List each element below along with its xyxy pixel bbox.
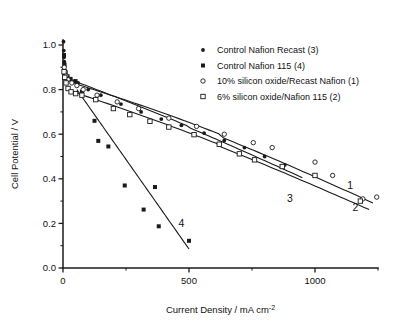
marker-open-square bbox=[64, 81, 68, 85]
marker-filled-square bbox=[142, 208, 146, 212]
marker-open-square bbox=[111, 106, 115, 110]
curve-label-4: 4 bbox=[179, 217, 185, 229]
marker-filled-square bbox=[93, 119, 97, 123]
marker-open-square bbox=[201, 94, 205, 98]
legend-label: Control Nafion 115 (4) bbox=[217, 61, 305, 71]
marker-filled-square bbox=[62, 53, 66, 57]
marker-open-circle bbox=[167, 116, 171, 120]
marker-open-circle bbox=[270, 145, 274, 149]
marker-filled-circle bbox=[62, 49, 66, 53]
marker-filled-circle bbox=[201, 48, 205, 52]
marker-filled-square bbox=[96, 139, 100, 143]
marker-filled-square bbox=[201, 64, 205, 68]
legend-label: 10% silicon oxide/Recast Nafion (1) bbox=[217, 76, 359, 86]
legend-item-4: 6% silicon oxide/Nafion 115 (2) bbox=[201, 92, 341, 102]
marker-open-circle bbox=[115, 100, 119, 104]
x-axis-title-superscript: -2 bbox=[269, 304, 275, 311]
polarization-chart-figure: 0.00.20.40.60.81.005001000 1234 Control … bbox=[0, 0, 402, 325]
marker-open-square bbox=[252, 158, 256, 162]
marker-open-square bbox=[63, 75, 67, 79]
marker-filled-circle bbox=[202, 131, 206, 135]
marker-open-square bbox=[167, 125, 171, 129]
marker-filled-circle bbox=[62, 40, 66, 44]
marker-open-square bbox=[128, 112, 132, 116]
curve-label-2: 2 bbox=[352, 201, 358, 213]
marker-open-square bbox=[94, 97, 98, 101]
x-tick-label: 0 bbox=[60, 275, 65, 286]
marker-filled-square bbox=[187, 239, 191, 243]
marker-filled-square bbox=[157, 224, 161, 228]
x-axis-title: Current Density / mA cm-2 bbox=[166, 304, 275, 316]
y-axis-title: Cell Potential / V bbox=[9, 118, 20, 189]
x-tick-label: 1000 bbox=[304, 275, 325, 286]
legend-label: 6% silicon oxide/Nafion 115 (2) bbox=[217, 92, 340, 102]
marker-filled-circle bbox=[159, 117, 163, 121]
legend-item-2: Control Nafion 115 (4) bbox=[201, 61, 305, 71]
y-tick-label: 0.4 bbox=[43, 173, 56, 184]
chart-svg: 0.00.20.40.60.81.005001000 1234 Control … bbox=[0, 0, 402, 325]
marker-open-circle bbox=[222, 132, 226, 136]
marker-open-circle bbox=[81, 87, 85, 91]
marker-open-circle bbox=[330, 173, 334, 177]
marker-open-circle bbox=[313, 160, 317, 164]
marker-open-circle bbox=[75, 83, 79, 87]
marker-open-square bbox=[69, 90, 73, 94]
legend-item-3: 10% silicon oxide/Recast Nafion (1) bbox=[201, 76, 359, 86]
marker-filled-circle bbox=[180, 123, 184, 127]
x-tick-label: 500 bbox=[181, 275, 197, 286]
marker-filled-square bbox=[153, 185, 157, 189]
y-tick-label: 0.8 bbox=[43, 84, 56, 95]
marker-open-square bbox=[73, 91, 77, 95]
marker-open-square bbox=[280, 164, 284, 168]
y-tick-label: 1.0 bbox=[43, 39, 56, 50]
marker-open-circle bbox=[251, 140, 255, 144]
marker-open-circle bbox=[62, 65, 66, 69]
marker-open-square bbox=[237, 152, 241, 156]
marker-open-square bbox=[62, 70, 66, 74]
marker-open-circle bbox=[136, 106, 140, 110]
legend-label: Control Nafion Recast (3) bbox=[217, 45, 319, 55]
marker-open-circle bbox=[95, 93, 99, 97]
marker-filled-square bbox=[123, 183, 127, 187]
marker-open-square bbox=[192, 132, 196, 136]
curve-label-1: 1 bbox=[347, 179, 353, 191]
marker-open-square bbox=[313, 173, 317, 177]
legend-item-1: Control Nafion Recast (3) bbox=[201, 45, 318, 55]
curve-label-3: 3 bbox=[287, 192, 293, 204]
y-tick-label: 0.2 bbox=[43, 218, 56, 229]
marker-open-circle bbox=[375, 195, 379, 199]
y-tick-label: 0.0 bbox=[43, 262, 56, 273]
marker-open-square bbox=[148, 119, 152, 123]
y-tick-label: 0.6 bbox=[43, 129, 56, 140]
marker-open-square bbox=[80, 93, 84, 97]
marker-open-square bbox=[217, 142, 221, 146]
marker-open-circle bbox=[201, 79, 205, 83]
marker-open-circle bbox=[194, 124, 198, 128]
marker-open-circle bbox=[70, 81, 74, 85]
marker-open-square bbox=[358, 199, 362, 203]
marker-filled-square bbox=[106, 144, 110, 148]
